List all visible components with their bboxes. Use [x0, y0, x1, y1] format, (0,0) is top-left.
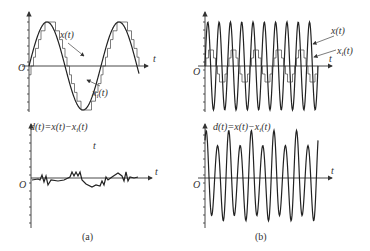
- origin-label: O: [19, 179, 26, 190]
- panel-b-top-plot: O t x(t) xi(t): [193, 12, 354, 112]
- panel-b-bottom-plot: d(t)=x(t)−xi(t) t O: [193, 121, 334, 228]
- origin-label: O: [193, 66, 200, 77]
- xi-t-label: xi(t): [336, 45, 354, 58]
- xi-t-label: xi(t): [91, 87, 109, 100]
- origin-label: O: [193, 179, 200, 190]
- d-t-label: d(t)=x(t)−xi(t): [213, 121, 271, 134]
- x-t-label: x(t): [330, 25, 346, 37]
- xi-t-pointer-arrow: [87, 80, 100, 86]
- error-d-curve: [32, 172, 138, 187]
- x-t-label: x(t): [59, 29, 75, 41]
- xi-t-pointer-arrow: [314, 50, 336, 57]
- t-axis-label: t: [331, 165, 334, 176]
- caption-a: (a): [82, 231, 93, 243]
- x-t-pointer-arrow: [313, 36, 334, 44]
- error-d-curve: [205, 130, 318, 220]
- t-axis-label: t: [153, 53, 156, 64]
- x-t-pointer-arrow: [68, 43, 84, 56]
- panel-a-top-plot: O t x(t) xi(t): [18, 12, 156, 112]
- figure-canvas: O t x(t) xi(t) d(t)=x(t)−xi(t) t t O (a)…: [0, 0, 370, 251]
- t-axis-label: t: [329, 53, 332, 64]
- d-t-label: d(t)=x(t)−xi(t): [30, 121, 88, 134]
- t-inner-label: t: [93, 140, 96, 151]
- panel-a-bottom-plot: d(t)=x(t)−xi(t) t t O: [19, 121, 158, 228]
- caption-b: (b): [255, 231, 267, 243]
- t-axis-label: t: [155, 166, 158, 177]
- origin-label: O: [18, 62, 25, 73]
